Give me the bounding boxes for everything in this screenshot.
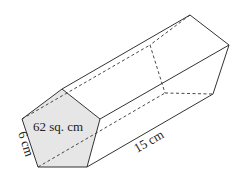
hidden-back-edge-bottom: [165, 93, 213, 94]
area-label: 62 sq. cm: [33, 119, 83, 134]
edge-right-lower: [87, 94, 213, 167]
hidden-back-edge-top-left: [150, 15, 190, 45]
back-visible-edges: [190, 15, 229, 94]
prism-diagram: 62 sq. cm 15 cm 6 cm: [0, 0, 243, 181]
